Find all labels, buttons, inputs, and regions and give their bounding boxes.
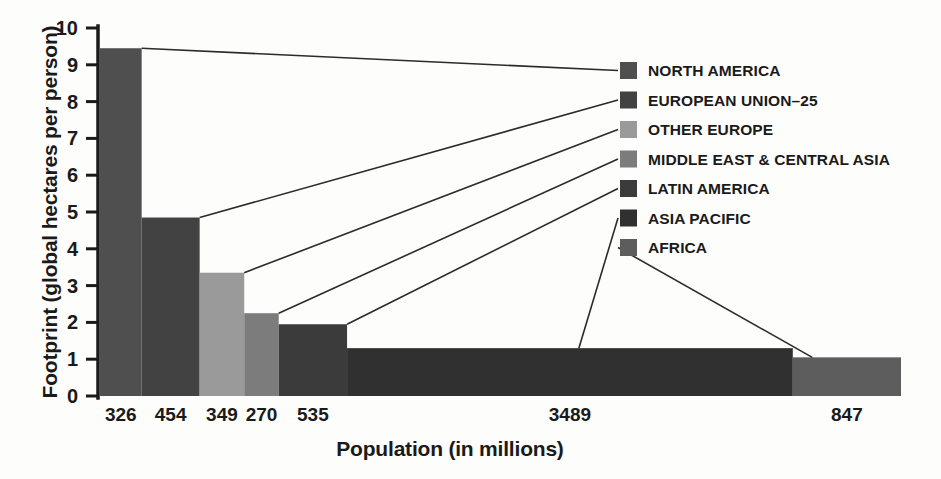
legend-label-1: EUROPEAN UNION–25 bbox=[648, 92, 818, 109]
legend-label-5: ASIA PACIFIC bbox=[648, 210, 751, 227]
x-tick-label-6: 847 bbox=[831, 404, 863, 425]
legend-label-0: NORTH AMERICA bbox=[648, 62, 780, 79]
leader-line-4 bbox=[347, 189, 618, 325]
bar-africa bbox=[793, 357, 901, 396]
legend-label-6: AFRICA bbox=[648, 239, 707, 256]
legend-swatch-6 bbox=[620, 239, 637, 256]
y-tick-label-6: 6 bbox=[67, 164, 78, 186]
bar-north-america bbox=[100, 48, 142, 396]
chart-legend: NORTH AMERICAEUROPEAN UNION–25OTHER EURO… bbox=[620, 62, 890, 256]
y-tick-label-7: 7 bbox=[67, 127, 78, 149]
leader-line-6 bbox=[618, 248, 812, 358]
y-tick-label-0: 0 bbox=[67, 385, 78, 407]
y-tick-label-10: 10 bbox=[56, 17, 78, 39]
legend-swatch-0 bbox=[620, 62, 637, 79]
legend-label-2: OTHER EUROPE bbox=[648, 121, 773, 138]
legend-label-4: LATIN AMERICA bbox=[648, 180, 770, 197]
x-tick-label-3: 270 bbox=[246, 404, 278, 425]
bar-european-union-25 bbox=[142, 218, 200, 396]
leader-line-2 bbox=[244, 130, 618, 273]
y-tick-label-1: 1 bbox=[67, 348, 78, 370]
legend-swatch-4 bbox=[620, 180, 637, 197]
y-tick-label-8: 8 bbox=[67, 91, 78, 113]
x-tick-label-0: 326 bbox=[105, 404, 137, 425]
y-tick-label-9: 9 bbox=[67, 54, 78, 76]
legend-swatch-5 bbox=[620, 210, 637, 227]
legend-swatch-2 bbox=[620, 121, 637, 138]
legend-label-3: MIDDLE EAST & CENTRAL ASIA bbox=[648, 151, 890, 168]
bar-middle-east-central-asia bbox=[244, 313, 278, 396]
x-tick-label-2: 349 bbox=[206, 404, 238, 425]
leader-line-5 bbox=[579, 218, 618, 348]
leader-line-0 bbox=[142, 48, 618, 70]
chart-plot-area: 012345678910 3264543492705353489847 NORT… bbox=[0, 0, 941, 479]
x-tick-label-4: 535 bbox=[297, 404, 329, 425]
y-tick-label-3: 3 bbox=[67, 275, 78, 297]
bar-asia-pacific bbox=[347, 348, 793, 396]
legend-swatch-1 bbox=[620, 92, 637, 109]
x-tick-label-5: 3489 bbox=[549, 404, 591, 425]
bar-other-europe bbox=[200, 273, 245, 396]
y-axis-ticks: 012345678910 bbox=[56, 17, 98, 407]
chart-figure: Footprint (global hectares per person) P… bbox=[0, 0, 941, 479]
leader-line-3 bbox=[279, 159, 618, 313]
leader-line-1 bbox=[200, 100, 618, 218]
x-axis-labels: 3264543492705353489847 bbox=[105, 404, 863, 425]
x-tick-label-1: 454 bbox=[155, 404, 187, 425]
y-tick-label-5: 5 bbox=[67, 201, 78, 223]
y-tick-label-4: 4 bbox=[67, 238, 79, 260]
bar-latin-america bbox=[279, 324, 347, 396]
y-tick-label-2: 2 bbox=[67, 311, 78, 333]
legend-swatch-3 bbox=[620, 151, 637, 168]
